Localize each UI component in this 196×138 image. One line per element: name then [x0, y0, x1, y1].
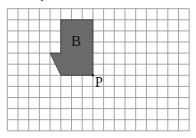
point-label-p: P	[95, 75, 103, 91]
shape-label-b: B	[71, 33, 81, 50]
diagram-canvas: B P	[0, 0, 196, 138]
grid	[0, 0, 196, 138]
point-p-marker	[92, 74, 94, 76]
top-mark	[41, 0, 43, 1]
grid-lines	[7, 9, 189, 131]
